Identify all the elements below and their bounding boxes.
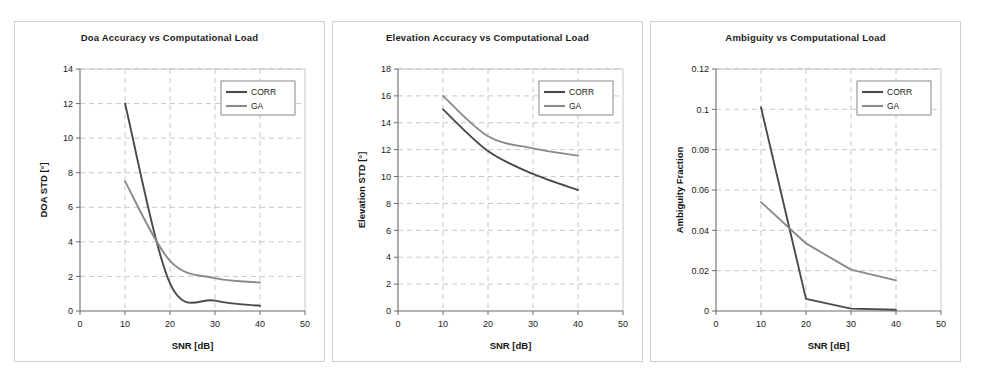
legend-label-corr: CORR (887, 87, 912, 97)
y-axis-tick-label: 6 (68, 202, 73, 212)
x-axis-tick-label: 20 (165, 319, 175, 329)
chart-panel-doa-accuracy: Doa Accuracy vs Computational Load 02468… (14, 21, 325, 362)
x-axis-tick-label: 0 (395, 319, 400, 329)
x-axis-tick-label: 50 (618, 319, 628, 329)
chart-plot-doa-accuracy: 0246810121401020304050SNR [dB]DOA STD [°… (15, 22, 326, 363)
legend-label-ga: GA (887, 101, 900, 111)
y-axis-tick-label: 12 (63, 99, 73, 109)
y-axis-tick-label: 18 (381, 64, 391, 74)
y-axis-tick-label: 2 (68, 272, 73, 282)
y-axis-tick-label: 14 (63, 64, 73, 74)
y-axis-tick-label: 0.08 (691, 145, 709, 155)
x-axis-tick-label: 40 (891, 319, 901, 329)
y-axis-tick-label: 2 (386, 279, 391, 289)
y-axis-tick-label: 8 (68, 168, 73, 178)
y-axis-tick-label: 0.1 (696, 105, 709, 115)
y-axis-tick-label: 0.12 (691, 64, 709, 74)
y-axis-tick-label: 0.02 (691, 266, 709, 276)
x-axis-title: SNR [dB] (490, 340, 532, 351)
y-axis-tick-label: 16 (381, 91, 391, 101)
legend: CORRGA (857, 81, 931, 115)
chart-panel-elevation-accuracy: Elevation Accuracy vs Computational Load… (332, 21, 643, 362)
y-axis-tick-label: 10 (381, 172, 391, 182)
x-axis-tick-label: 0 (713, 319, 718, 329)
y-axis-tick-label: 10 (63, 133, 73, 143)
y-axis-tick-label: 4 (386, 252, 391, 262)
y-axis-tick-label: 6 (386, 226, 391, 236)
x-axis-tick-label: 30 (846, 319, 856, 329)
x-axis-tick-label: 20 (483, 319, 493, 329)
chart-panel-ambiguity: Ambiguity vs Computational Load 00.020.0… (650, 21, 961, 362)
y-axis-title: Ambiguity Fraction (674, 147, 685, 234)
y-axis-title: Elevation STD [°] (356, 152, 367, 229)
y-axis-tick-label: 0.04 (691, 226, 709, 236)
plot-area: 02468101214161801020304050SNR [dB]Elevat… (356, 64, 628, 351)
x-axis-tick-label: 10 (120, 319, 130, 329)
x-axis-tick-label: 30 (528, 319, 538, 329)
y-axis-title: DOA STD [°] (38, 162, 49, 217)
plot-area: 0246810121401020304050SNR [dB]DOA STD [°… (38, 64, 310, 351)
x-axis-tick-label: 40 (255, 319, 265, 329)
x-axis-title: SNR [dB] (172, 340, 214, 351)
x-axis-tick-label: 50 (936, 319, 946, 329)
legend-label-ga: GA (569, 101, 582, 111)
legend-label-ga: GA (251, 101, 264, 111)
x-axis-title: SNR [dB] (808, 340, 850, 351)
chart-plot-elevation-accuracy: 02468101214161801020304050SNR [dB]Elevat… (333, 22, 644, 363)
y-axis-tick-label: 0 (704, 306, 709, 316)
plot-area: 00.020.040.060.080.10.1201020304050SNR [… (674, 64, 946, 351)
figure-row: Doa Accuracy vs Computational Load 02468… (0, 0, 983, 378)
y-axis-tick-label: 0.06 (691, 185, 709, 195)
x-axis-tick-label: 50 (300, 319, 310, 329)
legend-label-corr: CORR (251, 87, 276, 97)
x-axis-tick-label: 20 (801, 319, 811, 329)
y-axis-tick-label: 14 (381, 118, 391, 128)
legend-label-corr: CORR (569, 87, 594, 97)
x-axis-tick-label: 10 (756, 319, 766, 329)
y-axis-tick-label: 4 (68, 237, 73, 247)
x-axis-tick-label: 40 (573, 319, 583, 329)
y-axis-tick-label: 0 (68, 306, 73, 316)
y-axis-tick-label: 8 (386, 199, 391, 209)
legend: CORRGA (539, 81, 613, 115)
legend: CORRGA (221, 81, 295, 115)
x-axis-tick-label: 0 (77, 319, 82, 329)
y-axis-tick-label: 12 (381, 145, 391, 155)
x-axis-tick-label: 10 (438, 319, 448, 329)
chart-plot-ambiguity: 00.020.040.060.080.10.1201020304050SNR [… (651, 22, 962, 363)
y-axis-tick-label: 0 (386, 306, 391, 316)
x-axis-tick-label: 30 (210, 319, 220, 329)
